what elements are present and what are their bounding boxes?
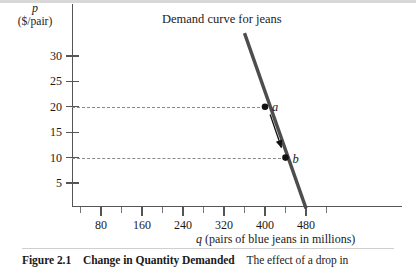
figure-demand-curve: p ($/pair) 5101520253080160240320400480 … — [0, 0, 416, 246]
data-point-a — [262, 104, 269, 111]
plot-canvas — [0, 0, 416, 246]
data-point-b-label: b — [293, 153, 299, 166]
figure-body: The effect of a drop in — [246, 254, 348, 266]
demand-curve-line — [245, 33, 307, 208]
x-axis-unit: (pairs of blue jeans in millions) — [205, 232, 355, 246]
data-point-b — [282, 154, 289, 161]
figure-caption-text: Figure 2.1 Change in Quantity Demanded T… — [22, 254, 348, 266]
x-axis-title: q (pairs of blue jeans in millions) — [196, 232, 355, 247]
figure-number: Figure 2.1 — [22, 254, 71, 266]
data-point-a-label: a — [272, 101, 278, 114]
figure-title: Change in Quantity Demanded — [83, 254, 235, 266]
caption-divider — [22, 248, 394, 249]
x-axis-symbol: q — [196, 232, 202, 246]
